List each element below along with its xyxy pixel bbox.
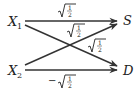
- input-node-x1: X 1: [7, 14, 22, 31]
- weight-x1-s: 1 2: [58, 4, 76, 18]
- weight-num: 1: [68, 75, 72, 82]
- x1-subscript: 1: [17, 22, 22, 31]
- weight-sign: −: [48, 75, 56, 86]
- weight-num: 1: [77, 24, 81, 31]
- weight-den: 2: [77, 31, 81, 38]
- weight-x1-d: 1 2: [88, 39, 106, 53]
- weight-den: 2: [98, 46, 102, 53]
- edge-x2-s: [25, 24, 117, 65]
- output-node-s: S: [123, 13, 132, 28]
- weight-den: 2: [68, 11, 72, 18]
- weight-num: 1: [68, 4, 72, 11]
- edge-x1-d: [25, 25, 117, 66]
- x2-subscript: 2: [17, 71, 22, 80]
- s-label: S: [123, 13, 132, 28]
- output-node-d: D: [122, 63, 134, 78]
- signal-flow-diagram: X 1 X 2 S D 1 2 1 2 1 2 − 1: [0, 0, 140, 93]
- d-label: D: [122, 63, 134, 78]
- weight-x2-s: 1 2: [67, 24, 85, 38]
- weight-den: 2: [68, 82, 72, 89]
- weight-x2-d: − 1 2: [48, 75, 76, 89]
- weight-num: 1: [98, 39, 102, 46]
- input-node-x2: X 2: [7, 63, 22, 80]
